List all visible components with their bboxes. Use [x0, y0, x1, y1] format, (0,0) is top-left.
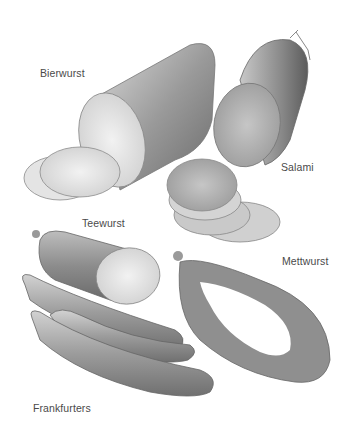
label-frankfurters: Frankfurters: [33, 402, 91, 414]
label-bierwurst: Bierwurst: [40, 67, 85, 79]
illustration-drawing: [0, 0, 357, 438]
sausage-illustration: Bierwurst Salami Teewurst Mettwurst Fran…: [0, 0, 357, 438]
label-teewurst: Teewurst: [82, 217, 125, 229]
label-mettwurst: Mettwurst: [282, 255, 328, 267]
label-salami: Salami: [281, 161, 314, 173]
mettwurst-drawing: [173, 251, 330, 382]
